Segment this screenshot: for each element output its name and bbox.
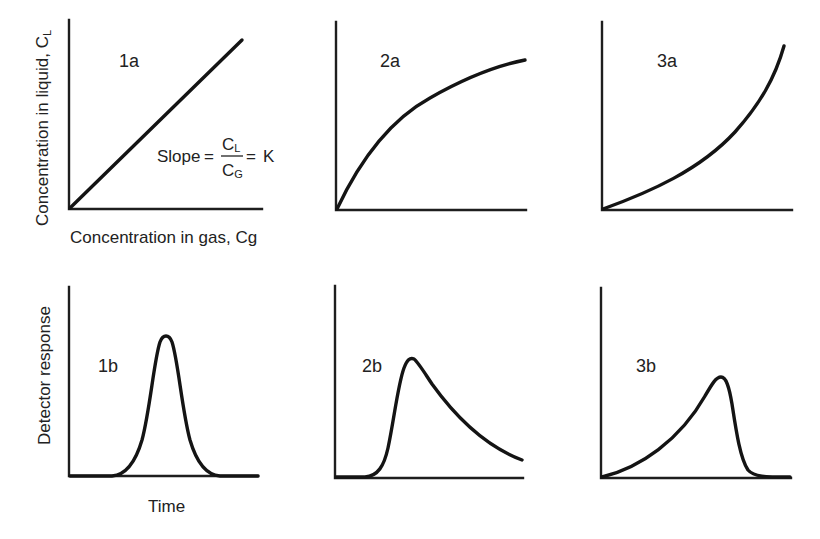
panel-1b-axes: [69, 287, 258, 476]
formula-slope-text: Slope: [157, 147, 200, 166]
y-axis-title-bottom: Detector response: [35, 306, 54, 445]
panel-3b: 3b: [601, 288, 791, 478]
panel-1a-label: 1a: [119, 51, 140, 71]
x-axis-title-bottom: Time: [148, 497, 185, 516]
panel-3a-axes: [602, 22, 792, 210]
formula-denominator: CG: [222, 161, 243, 180]
x-axis-title-top: Concentration in gas, Cg: [70, 228, 257, 247]
panel-3a: 3a: [602, 22, 792, 210]
panel-1a: 1a Slope = CL CG = K: [69, 20, 275, 209]
panel-2a-label: 2a: [380, 51, 401, 71]
panel-1b-label: 1b: [98, 356, 118, 376]
panel-3b-fronting-peak: [602, 377, 790, 477]
panel-2b-tailing-peak: [336, 358, 522, 477]
panel-2a-concave-curve: [337, 60, 525, 209]
panel-2a: 2a: [336, 22, 526, 210]
panel-2b-label: 2b: [362, 356, 382, 376]
isotherm-peak-shape-diagram: 1a Slope = CL CG = K Concentration in li…: [0, 0, 820, 539]
formula-numerator: CL: [222, 135, 240, 154]
panel-3a-label: 3a: [657, 51, 678, 71]
panel-3b-label: 3b: [636, 356, 656, 376]
panel-1a-linear-curve: [70, 40, 242, 208]
formula-equals-1: =: [204, 147, 214, 166]
y-axis-title-top: Concentration in liquid, CL: [33, 30, 53, 226]
panel-3a-convex-curve: [603, 46, 784, 209]
panel-1b: 1b: [69, 287, 258, 476]
panel-2a-axes: [336, 22, 526, 210]
formula-k: K: [263, 147, 275, 166]
panel-2b: 2b: [335, 286, 523, 478]
formula-equals-2: =: [246, 147, 256, 166]
panel-3b-axes: [601, 288, 791, 478]
slope-formula: Slope = CL CG = K: [157, 135, 275, 180]
